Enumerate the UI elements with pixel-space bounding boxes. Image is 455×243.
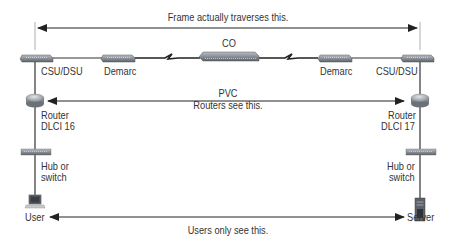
users-path-label: Users only see this. [188, 224, 269, 236]
pvc-label: PVC [218, 87, 237, 99]
csu-dsu-right-label: CSU/DSU [376, 65, 418, 77]
csu-dsu-left-label: CSU/DSU [41, 65, 83, 77]
hub-right-sub: switch [389, 171, 415, 183]
router-right-icon [411, 94, 429, 108]
serial-link-left [134, 54, 200, 59]
demarc-right-icon [318, 55, 352, 62]
router-left-dlci: DLCI 16 [41, 120, 75, 132]
hub-right-icon [406, 149, 436, 155]
router-left-icon [26, 94, 44, 108]
user-pc-icon [25, 195, 45, 208]
co-switch-icon [199, 52, 259, 61]
pvc-sub-label: Routers see this. [193, 99, 262, 111]
user-label: User [25, 211, 45, 223]
co-label: CO [222, 37, 236, 49]
demarc-right-label: Demarc [320, 65, 352, 77]
serial-link-right [258, 54, 318, 59]
hub-left-icon [21, 149, 51, 155]
csu-dsu-right-icon [401, 55, 434, 62]
demarc-left-label: Demarc [104, 65, 136, 77]
frame-path-label: Frame actually traverses this. [168, 11, 289, 23]
hub-left-sub: switch [41, 171, 67, 183]
csu-dsu-left-icon [20, 55, 53, 62]
demarc-left-icon [101, 55, 135, 62]
server-label: Server [407, 211, 434, 223]
router-right-dlci: DLCI 17 [381, 120, 415, 132]
